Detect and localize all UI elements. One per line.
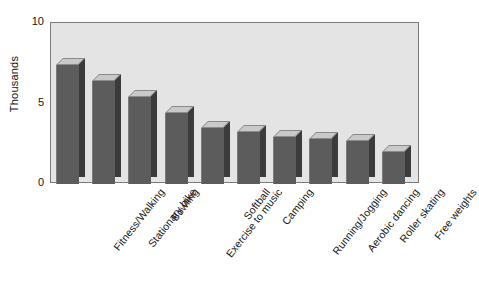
bars-container	[50, 22, 419, 184]
bar-front-face	[273, 137, 296, 184]
bar-front-face	[237, 132, 260, 184]
bar-side-face	[259, 125, 266, 177]
y-axis-ticks: 10 5 0	[6, 0, 44, 308]
bar-front-face	[382, 152, 405, 184]
bar-side-face	[223, 121, 230, 177]
bar-side-face	[114, 74, 121, 177]
bar-front-face	[128, 97, 151, 184]
bar	[201, 121, 223, 184]
y-tick-label-10: 10	[18, 16, 44, 27]
bar-front-face	[309, 139, 332, 184]
bar-front-face	[201, 128, 224, 184]
bar	[165, 106, 187, 184]
bar-side-face	[295, 130, 302, 177]
bar	[128, 90, 150, 184]
bar	[309, 132, 331, 184]
bar-front-face	[56, 65, 79, 184]
bar-side-face	[331, 132, 338, 177]
y-tick-label-5: 5	[18, 97, 44, 108]
bar	[237, 125, 259, 184]
bar-front-face	[346, 141, 369, 184]
x-axis-category-labels: Fitness/WalkingStationary bikeBowlingExe…	[50, 186, 430, 308]
x-axis-label: Camping	[279, 186, 315, 227]
y-tick-label-0: 0	[18, 177, 44, 188]
bar-side-face	[187, 106, 194, 177]
bar	[273, 130, 295, 184]
bar-front-face	[165, 113, 188, 184]
bar-side-face	[78, 58, 85, 177]
bar-side-face	[150, 90, 157, 177]
bar-front-face	[92, 81, 115, 184]
bar	[382, 145, 404, 184]
bar	[92, 74, 114, 184]
bar	[56, 58, 78, 184]
bar	[346, 134, 368, 184]
